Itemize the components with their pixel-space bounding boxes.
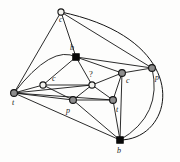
graph-node-label-t_bottom: t xyxy=(116,105,119,114)
graph-node-c_right[interactable] xyxy=(119,70,126,77)
graph-node-label-p_right: p xyxy=(154,73,159,82)
graph-edge xyxy=(120,73,122,140)
graph-node-t_bottom[interactable] xyxy=(110,97,117,104)
graph-figure: ctbpc?cptb xyxy=(0,0,180,162)
graph-node-label-b_upper: b xyxy=(70,43,74,52)
graph-edge xyxy=(76,57,122,73)
graph-node-t_left[interactable] xyxy=(11,90,18,97)
graph-edge xyxy=(113,73,122,100)
graph-node-label-c_right: c xyxy=(126,76,130,85)
graph-node-p_bottom[interactable] xyxy=(70,97,77,104)
graph-edge xyxy=(73,100,120,140)
graph-edge xyxy=(43,57,76,85)
nodes-layer xyxy=(11,9,156,143)
graph-node-c_left[interactable] xyxy=(40,82,46,88)
graph-edge xyxy=(122,68,152,73)
graph-node-q_center[interactable] xyxy=(89,82,95,88)
graph-node-label-b_bottom: b xyxy=(117,146,121,155)
graph-node-label-c_top: c xyxy=(59,15,63,24)
graph-node-label-q_center: ? xyxy=(89,69,93,79)
graph-edge xyxy=(92,73,122,85)
graph-canvas: ctbpc?cptb xyxy=(0,0,180,162)
graph-node-b_bottom[interactable] xyxy=(117,137,123,143)
graph-edge xyxy=(76,57,152,68)
graph-node-label-c_left: c xyxy=(52,74,56,83)
graph-edge xyxy=(14,85,92,93)
graph-node-b_upper[interactable] xyxy=(73,54,79,60)
graph-node-label-t_left: t xyxy=(12,98,15,107)
graph-node-p_right[interactable] xyxy=(149,65,156,72)
graph-node-label-p_bottom: p xyxy=(65,106,70,115)
